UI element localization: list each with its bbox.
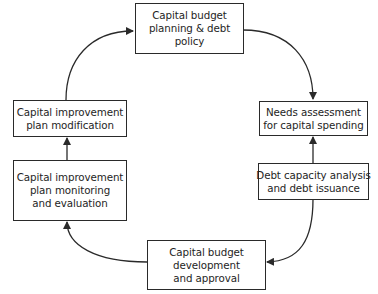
node-label-line: Capital budget [149,9,230,22]
node-label-line: development [169,259,243,272]
node-label-line: Debt capacity analysis [256,169,370,182]
node-capital-budget-development: Capital budget development and approval [147,240,266,290]
node-cip-modification: Capital improvement plan modification [13,100,127,137]
node-label-line: and evaluation [17,197,124,210]
node-label-line: plan monitoring [17,184,124,197]
node-cip-monitoring: Capital improvement plan monitoring and … [13,160,127,221]
arrow-planning-to-needs [243,30,313,99]
node-label-line: and approval [169,272,243,285]
node-label-line: Capital improvement [17,106,124,119]
node-label-line: plan modification [17,119,124,132]
diagram-canvas: Capital budget planning & debt policy Ne… [0,0,378,294]
arrow-development-to-monitoring [67,222,147,262]
node-label-line: Needs assessment [263,106,364,119]
node-needs-assessment: Needs assessment for capital spending [259,101,368,136]
node-label-line: for capital spending [263,119,364,132]
node-label-line: Capital improvement [17,171,124,184]
arrow-modification-to-planning [66,31,133,100]
arrow-debt-to-development [267,199,313,262]
node-label-line: Capital budget [169,246,243,259]
node-debt-capacity-analysis: Debt capacity analysis and debt issuance [258,163,369,200]
node-label-line: and debt issuance [256,182,370,195]
node-label-line: planning & debt [149,22,230,35]
node-capital-budget-planning: Capital budget planning & debt policy [135,3,244,54]
node-label-line: policy [149,35,230,48]
